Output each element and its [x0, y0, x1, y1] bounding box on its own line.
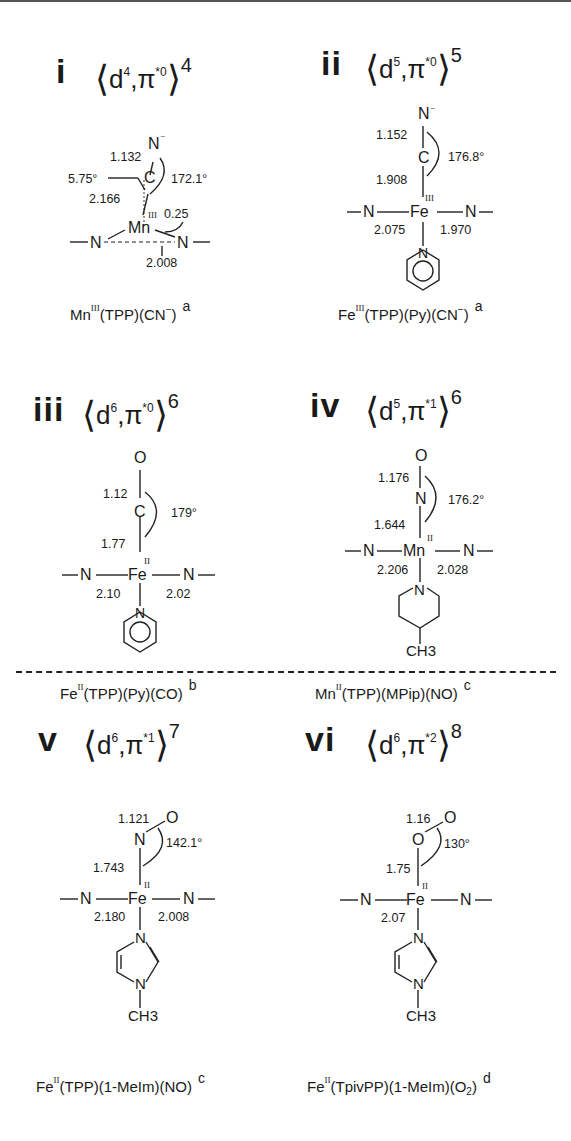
trans-bond-label: 2.075	[374, 223, 405, 237]
ligand-angle-label: 130°	[444, 837, 470, 851]
atom-n: N	[418, 106, 430, 122]
atom-c: C	[144, 170, 156, 186]
oxidation-state: II	[144, 556, 150, 566]
bond-length-label: 1.132	[110, 150, 141, 164]
charge: −	[160, 131, 165, 141]
trans-bond-label: 2.206	[377, 563, 408, 577]
oxidation-state: II	[427, 533, 433, 543]
panel-ii: ii ⟨d5,π*0⟩5 N − C Fe III N N N 1.152 17…	[285, 0, 570, 330]
charge: −	[430, 103, 435, 113]
atom-o: O	[415, 448, 427, 464]
atom-imidazole-n1: N	[135, 930, 146, 945]
metal-n-bond-label: 2.008	[158, 910, 189, 924]
atom-imidazole-n1: N	[413, 930, 424, 945]
ligand-angle-label: 176.2°	[448, 493, 484, 507]
atom-eq-n-left: N	[363, 543, 375, 559]
atom-metal: Mn	[403, 543, 425, 559]
metal-n-bond-label: 1.970	[440, 223, 471, 237]
oxidation-state: III	[425, 193, 434, 203]
metal-ligand-bond-label: 1.75	[386, 862, 410, 876]
metal-n-bond-label: 2.008	[146, 256, 177, 270]
panel-iii: iii ⟨d6,π*0⟩6 O C Fe II N N N 1.12 179° …	[0, 330, 285, 660]
atom-pyridine-n: N	[418, 246, 428, 260]
metal-n-bond-label: 2.028	[437, 563, 468, 577]
atom-metal: Fe	[410, 204, 429, 220]
bond-drawing	[285, 330, 570, 660]
compound-caption: MnIII(TPP)(CN−)a	[70, 298, 190, 323]
methyl-group: CH3	[128, 1008, 158, 1023]
ligand-angle-label: 179°	[171, 506, 197, 520]
atom-eq-n-left: N	[90, 235, 102, 251]
bond-length-label: 1.176	[378, 471, 409, 485]
bond-length-label: 1.152	[376, 128, 407, 142]
bond-length-label: 1.16	[406, 812, 430, 826]
ligand-angle-label: 176.8°	[448, 150, 484, 164]
trans-bond-label: 2.07	[381, 911, 405, 925]
compound-caption: FeII(TpivPP)(1-MeIm)(O2)d	[307, 1070, 491, 1097]
atom-metal: Fe	[128, 567, 147, 583]
atom-n: N	[415, 491, 427, 507]
atom-piperidine-n: N	[414, 582, 425, 597]
trans-bond-label: 2.10	[96, 587, 120, 601]
trans-bond-label: 2.180	[94, 910, 125, 924]
panel-vi: vi ⟨d6,π*2⟩8 O O Fe II N N N N CH3 1.16 …	[285, 690, 570, 1141]
ligand-angle-label: 172.1°	[171, 172, 207, 186]
oxidation-state: III	[148, 210, 157, 220]
tilt-angle-label: 5.75°	[68, 172, 97, 186]
atom-n: N	[134, 832, 146, 848]
atom-o: O	[166, 810, 178, 826]
bond-drawing	[0, 0, 285, 330]
metal-ligand-bond-label: 1.908	[376, 173, 407, 187]
atom-eq-n-right: N	[183, 567, 195, 583]
compound-caption: FeII(TPP)(1-MeIm)(NO)c	[36, 1070, 205, 1095]
atom-eq-n-right: N	[177, 235, 189, 251]
panel-iv: iv ⟨d5,π*1⟩6 O N Mn II N N N CH3 1.176 1…	[285, 330, 570, 660]
atom-imidazole-n3: N	[413, 976, 424, 991]
bond-length-label: 1.12	[103, 487, 127, 501]
atom-eq-n-left: N	[80, 891, 92, 907]
atom-o-bound: O	[412, 832, 424, 848]
displacement-label: 0.25	[164, 207, 188, 221]
atom-imidazole-n3: N	[135, 976, 146, 991]
atom-eq-n-left: N	[360, 892, 372, 908]
metal-n-bond-label: 2.02	[166, 587, 190, 601]
oxidation-state: II	[144, 880, 150, 890]
atom-o: O	[134, 450, 146, 466]
atom-pyridine-n: N	[135, 606, 145, 620]
metal-ligand-bond-label: 1.644	[374, 518, 405, 532]
atom-metal: Fe	[406, 892, 425, 908]
bond-length-label: 1.121	[118, 812, 149, 826]
atom-metal: Mn	[128, 220, 150, 236]
metal-ligand-bond-label: 2.166	[89, 192, 120, 206]
oxidation-state: II	[422, 881, 428, 891]
methyl-group: CH3	[406, 1008, 436, 1023]
metal-ligand-bond-label: 1.77	[101, 537, 125, 551]
atom-eq-n-right: N	[460, 892, 472, 908]
panel-v: v ⟨d6,π*1⟩7 O N Fe II N N N N CH3 1.121 …	[0, 690, 285, 1141]
metal-ligand-bond-label: 1.743	[93, 861, 124, 875]
atom-c: C	[418, 150, 430, 166]
atom-n: N	[148, 136, 160, 152]
atom-c: C	[134, 504, 146, 520]
section-divider	[16, 671, 556, 673]
methyl-group: CH3	[406, 643, 436, 658]
compound-caption: FeIII(TPP)(Py)(CN−)a	[338, 298, 482, 323]
atom-eq-n-right: N	[463, 543, 475, 559]
atom-o-terminal: O	[444, 810, 456, 826]
atom-eq-n-right: N	[183, 891, 195, 907]
atom-eq-n-right: N	[465, 204, 477, 220]
atom-eq-n-left: N	[80, 567, 92, 583]
panel-i: i ⟨d4,π*0⟩4 N − C Mn III N N 1.132 5.75°…	[0, 0, 285, 330]
atom-eq-n-left: N	[363, 204, 375, 220]
ligand-angle-label: 142.1°	[166, 836, 202, 850]
atom-metal: Fe	[128, 891, 147, 907]
